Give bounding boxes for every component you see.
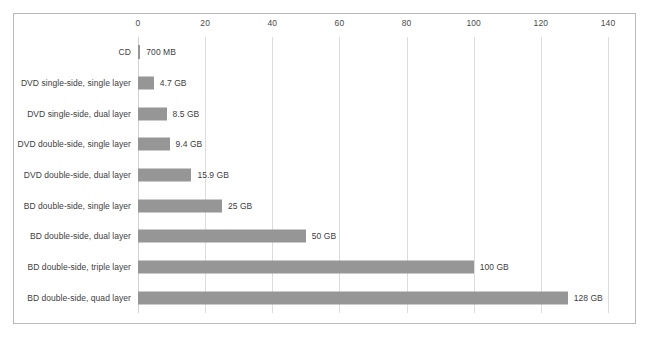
- category-label: DVD single-side, single layer: [21, 78, 131, 88]
- bar-value-label: 50 GB: [312, 231, 336, 241]
- bar-row: BD double-side, dual layer50 GB: [138, 221, 608, 252]
- gridline-140: [608, 37, 609, 313]
- category-label: DVD double-side, dual layer: [24, 170, 131, 180]
- x-tick-label-40: 40: [267, 18, 277, 28]
- x-tick-label-20: 20: [200, 18, 210, 28]
- bar-value-label: 700 MB: [146, 47, 176, 57]
- bar-row: DVD single-side, single layer4.7 GB: [138, 68, 608, 99]
- plot-area: 020406080100120140 CD700 MBDVD single-si…: [138, 37, 608, 313]
- category-label: BD double-side, dual layer: [30, 231, 131, 241]
- category-label: BD double-side, quad layer: [27, 293, 131, 303]
- bar-value-label: 4.7 GB: [160, 78, 187, 88]
- x-tick-label-0: 0: [136, 18, 141, 28]
- bar[interactable]: [138, 260, 474, 273]
- bar-value-label: 8.5 GB: [173, 109, 200, 119]
- category-label: CD: [119, 47, 131, 57]
- category-label: DVD single-side, dual layer: [27, 109, 131, 119]
- bar[interactable]: [138, 230, 306, 243]
- x-tick-label-80: 80: [402, 18, 412, 28]
- bar[interactable]: [138, 168, 191, 181]
- bar[interactable]: [138, 199, 222, 212]
- bar-row: DVD double-side, dual layer15.9 GB: [138, 160, 608, 191]
- bar-value-label: 100 GB: [480, 262, 509, 272]
- bar[interactable]: [138, 291, 568, 304]
- bar[interactable]: [138, 107, 167, 120]
- chart-frame: 020406080100120140 CD700 MBDVD single-si…: [13, 13, 636, 324]
- x-tick-label-100: 100: [466, 18, 480, 28]
- x-tick-label-120: 120: [534, 18, 548, 28]
- bar[interactable]: [138, 76, 154, 89]
- bar-row: BD double-side, triple layer100 GB: [138, 252, 608, 283]
- bar-value-label: 128 GB: [574, 293, 603, 303]
- bar-value-label: 15.9 GB: [197, 170, 229, 180]
- bar-row: CD700 MB: [138, 37, 608, 68]
- bar[interactable]: [138, 138, 170, 151]
- category-label: BD double-side, single layer: [24, 201, 131, 211]
- bar-value-label: 9.4 GB: [176, 139, 203, 149]
- x-tick-label-140: 140: [601, 18, 615, 28]
- category-label: DVD double-side, single layer: [18, 139, 131, 149]
- bar-row: DVD double-side, single layer9.4 GB: [138, 129, 608, 160]
- bar-value-label: 25 GB: [228, 201, 252, 211]
- bar-row: DVD single-side, dual layer8.5 GB: [138, 98, 608, 129]
- bar-row: BD double-side, quad layer128 GB: [138, 282, 608, 313]
- bar-row: BD double-side, single layer25 GB: [138, 190, 608, 221]
- category-label: BD double-side, triple layer: [28, 262, 131, 272]
- bar[interactable]: [138, 45, 140, 59]
- x-tick-label-60: 60: [335, 18, 345, 28]
